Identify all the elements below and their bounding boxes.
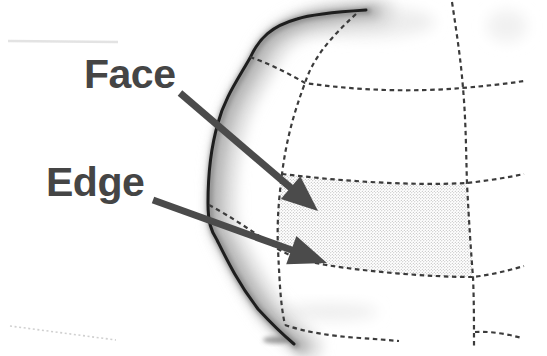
faint-bottom-dotted-line <box>10 326 116 340</box>
latitude-line-top <box>250 57 524 90</box>
longitude-line-right <box>452 2 474 348</box>
latitude-line-bottom-right <box>475 332 522 338</box>
faint-top-streak <box>8 41 118 42</box>
lower-shading-wash <box>282 304 378 320</box>
diagram-canvas: Face Edge <box>0 0 547 356</box>
top-right-smudge <box>487 10 527 42</box>
face-label: Face <box>84 54 175 95</box>
edge-label: Edge <box>46 162 144 203</box>
longitude-line-left <box>278 14 356 325</box>
